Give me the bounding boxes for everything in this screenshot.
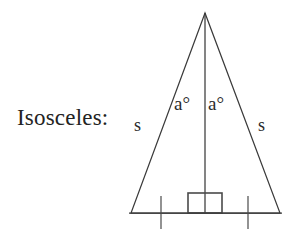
side-label-right: s [258,116,265,134]
angle-label-left: a° [174,94,190,113]
shape-name-label: Isosceles: [17,106,108,129]
side-label-left: s [134,116,141,134]
isosceles-triangle-figure: Isosceles: a° a° s s [0,0,296,233]
angle-label-right: a° [208,94,224,113]
